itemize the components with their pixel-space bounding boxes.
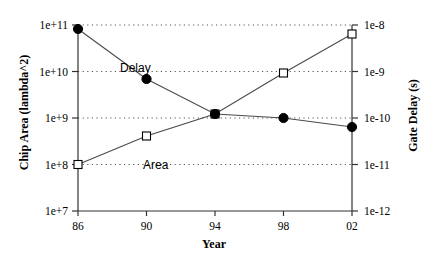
x-tick-label-0: 86 <box>72 220 84 232</box>
y-tick-label-left-0: 1e+7 <box>45 205 68 217</box>
series-area <box>74 30 356 169</box>
y-tick-label-right-0: 1e-12 <box>364 205 390 217</box>
series-delay-point-98 <box>279 113 288 122</box>
x-tick-label-3: 98 <box>278 220 290 232</box>
series-annotation-delay: Delay <box>120 61 151 75</box>
y-axis-right: 1e-8 1e-9 1e-10 1e-11 1e-12 <box>352 19 390 217</box>
series-delay <box>73 24 356 131</box>
y-tick-label-left-3: 1e+10 <box>39 66 68 78</box>
series-area-point-86 <box>74 161 82 169</box>
series-delay-point-94 <box>210 109 219 118</box>
chart-plot-area: 1e+11 1e+10 1e+9 1e+8 1e+7 1e-8 1e-9 1e-… <box>0 0 428 266</box>
series-delay-point-86 <box>73 24 82 33</box>
y-tick-label-left-1: 1e+8 <box>45 159 68 171</box>
y-tick-label-left-2: 1e+9 <box>45 112 68 124</box>
y-axis-left: 1e+11 1e+10 1e+9 1e+8 1e+7 <box>39 19 78 217</box>
series-delay-point-90 <box>142 74 151 83</box>
series-area-point-02 <box>348 30 356 38</box>
y-tick-label-right-2: 1e-10 <box>364 112 390 124</box>
y-tick-label-right-1: 1e-11 <box>364 159 390 171</box>
x-tick-label-2: 94 <box>209 220 221 232</box>
series-area-point-90 <box>143 132 151 140</box>
gridlines <box>78 25 352 165</box>
series-area-point-98 <box>280 69 288 77</box>
y-axis-title-right: Gate Delay (s) <box>406 46 421 186</box>
y-axis-title-left: Chip Area (lambda^2) <box>17 38 32 188</box>
x-axis: 86 90 94 98 02 <box>72 211 358 232</box>
series-area-line <box>78 34 352 165</box>
y-tick-label-right-3: 1e-9 <box>364 66 385 78</box>
x-axis-title: Year <box>169 237 259 252</box>
series-annotation-area: Area <box>143 158 169 172</box>
x-tick-label-4: 02 <box>346 220 358 232</box>
y-tick-label-right-4: 1e-8 <box>364 19 385 31</box>
x-tick-label-1: 90 <box>141 220 153 232</box>
y-tick-label-left-4: 1e+11 <box>40 19 69 31</box>
series-delay-point-02 <box>347 122 356 131</box>
chart-figure: 1e+11 1e+10 1e+9 1e+8 1e+7 1e-8 1e-9 1e-… <box>0 0 428 266</box>
